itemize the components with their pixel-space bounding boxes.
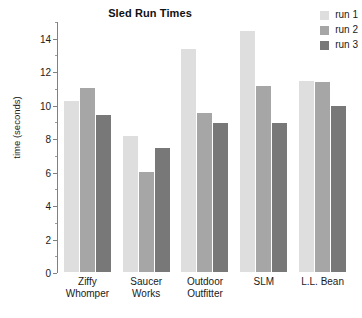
x-axis-label: L.L. Bean bbox=[293, 276, 352, 300]
y-tick-major bbox=[53, 72, 57, 73]
x-axis-label-line: Whomper bbox=[58, 288, 117, 300]
y-tick-label: 4 bbox=[45, 201, 51, 212]
y-tick-major bbox=[53, 39, 57, 40]
y-tick-minor bbox=[55, 89, 57, 90]
y-tick-minor bbox=[55, 156, 57, 157]
legend-label: run 1 bbox=[335, 10, 358, 20]
y-tick-minor bbox=[55, 55, 57, 56]
bar[interactable] bbox=[96, 115, 111, 272]
x-axis-label-line: Works bbox=[117, 288, 176, 300]
bar-chart-figure: Sled Run Times run 1run 2run 3 time (sec… bbox=[0, 0, 362, 318]
bars-layer bbox=[58, 22, 352, 272]
y-tick-major bbox=[53, 240, 57, 241]
bar[interactable] bbox=[123, 136, 138, 272]
bar[interactable] bbox=[181, 49, 196, 272]
bar[interactable] bbox=[139, 172, 154, 272]
x-axis-label-line: Outdoor bbox=[176, 276, 235, 288]
bar[interactable] bbox=[240, 31, 255, 272]
bar-group bbox=[234, 22, 293, 272]
y-tick-label: 0 bbox=[45, 268, 51, 279]
y-tick-major bbox=[53, 273, 57, 274]
y-tick-label: 14 bbox=[40, 33, 51, 44]
x-axis-label-line: Saucer bbox=[117, 276, 176, 288]
y-tick-minor bbox=[55, 122, 57, 123]
x-axis-label-line: SLM bbox=[234, 276, 293, 288]
y-tick-label: 2 bbox=[45, 234, 51, 245]
bar[interactable] bbox=[64, 101, 79, 272]
x-axis-label: SLM bbox=[234, 276, 293, 300]
y-tick-label: 6 bbox=[45, 167, 51, 178]
y-tick-major bbox=[53, 173, 57, 174]
y-tick-minor bbox=[55, 256, 57, 257]
y-tick-minor bbox=[55, 189, 57, 190]
y-tick-minor bbox=[55, 223, 57, 224]
bar-group bbox=[117, 22, 176, 272]
x-axis-label: ZiffyWhomper bbox=[58, 276, 117, 300]
x-axis-label: SaucerWorks bbox=[117, 276, 176, 300]
bar[interactable] bbox=[256, 86, 271, 272]
bar[interactable] bbox=[155, 148, 170, 272]
y-axis-title: time (seconds) bbox=[11, 68, 22, 188]
legend-item-run-1[interactable]: run 1 bbox=[320, 10, 358, 20]
x-axis-label: OutdoorOutfitter bbox=[176, 276, 235, 300]
y-tick-label: 8 bbox=[45, 134, 51, 145]
y-tick-major bbox=[53, 106, 57, 107]
bar[interactable] bbox=[80, 88, 95, 272]
bar[interactable] bbox=[331, 106, 346, 272]
x-axis-label-line: Ziffy bbox=[58, 276, 117, 288]
bar-group bbox=[58, 22, 117, 272]
y-tick-label: 10 bbox=[40, 100, 51, 111]
y-tick-major bbox=[53, 206, 57, 207]
bar-group bbox=[293, 22, 352, 272]
x-axis-label-line: Outfitter bbox=[176, 288, 235, 300]
bar-group bbox=[176, 22, 235, 272]
legend-swatch-icon bbox=[320, 11, 329, 20]
bar[interactable] bbox=[315, 82, 330, 272]
y-tick-label: 12 bbox=[40, 67, 51, 78]
bar[interactable] bbox=[272, 123, 287, 272]
chart-title: Sled Run Times bbox=[0, 7, 300, 19]
bar[interactable] bbox=[213, 123, 228, 272]
plot-area: 02468101214 bbox=[57, 22, 352, 272]
y-tick-minor bbox=[55, 22, 57, 23]
bar[interactable] bbox=[197, 113, 212, 272]
x-axis-labels: ZiffyWhomperSaucerWorksOutdoorOutfitterS… bbox=[58, 276, 352, 300]
x-axis-label-line: L.L. Bean bbox=[293, 276, 352, 288]
y-tick-major bbox=[53, 139, 57, 140]
bar[interactable] bbox=[299, 81, 314, 272]
